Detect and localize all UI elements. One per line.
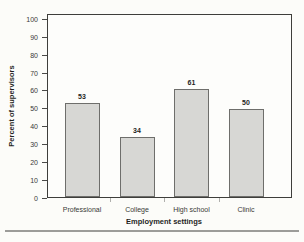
y-tick-label: 40 (0, 122, 38, 131)
x-category-high-school: High school (162, 205, 222, 214)
y-tick-label: 60 (0, 86, 38, 95)
x-category-clinic: Clinic (216, 205, 276, 214)
x-boundary-tick (110, 198, 111, 202)
x-boundary-tick (219, 198, 220, 202)
y-tick-mark (42, 55, 47, 56)
bar-value-high-school: 61 (177, 78, 207, 87)
y-tick-label: 100 (0, 15, 38, 24)
bar-professional (65, 103, 100, 197)
x-axis-title: Employment settings (44, 217, 284, 226)
y-tick-mark (42, 19, 47, 20)
y-tick-mark (42, 144, 47, 145)
bar-value-clinic: 50 (231, 98, 261, 107)
y-tick-mark (42, 90, 47, 91)
y-tick-label: 20 (0, 158, 38, 167)
y-tick-mark (42, 180, 47, 181)
y-tick-mark (42, 198, 47, 199)
y-tick-label: 10 (0, 176, 38, 185)
y-tick-mark (42, 126, 47, 127)
y-tick-mark (42, 108, 47, 109)
bar-value-college: 34 (122, 126, 152, 135)
y-tick-mark (42, 73, 47, 74)
y-tick-mark (42, 162, 47, 163)
y-tick-label: 70 (0, 69, 38, 78)
y-tick-label: 0 (0, 194, 38, 203)
bar-clinic (229, 109, 264, 197)
x-category-professional: Professional (52, 205, 112, 214)
y-tick-label: 30 (0, 140, 38, 149)
bar-high-school (174, 89, 209, 197)
x-boundary-tick (164, 198, 165, 202)
scanned-figure-page: Percent of supervisors 01020304050607080… (0, 0, 304, 242)
x-category-college: College (107, 205, 167, 214)
bar-value-professional: 53 (67, 92, 97, 101)
y-tick-label: 90 (0, 33, 38, 42)
y-tick-mark (42, 37, 47, 38)
y-tick-label: 50 (0, 104, 38, 113)
page-divider-rule (5, 230, 299, 232)
y-tick-label: 80 (0, 51, 38, 60)
bar-college (120, 137, 155, 197)
